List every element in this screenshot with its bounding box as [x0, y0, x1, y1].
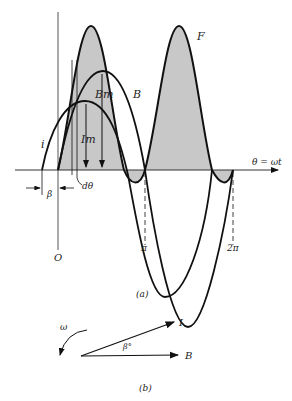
label-vector-B: B	[184, 350, 192, 361]
label-Bm: Bm	[94, 88, 114, 101]
label-Im: Im	[80, 133, 96, 146]
label-dtheta: dθ	[82, 181, 94, 191]
label-pi: π	[140, 243, 148, 253]
label-omega: ω	[60, 322, 68, 332]
label-angle: β°	[122, 342, 132, 351]
omega-rotation-arrow	[60, 330, 87, 355]
caption-b: (b)	[139, 383, 152, 393]
axis-label: θ = ωt	[252, 157, 282, 167]
label-i: i	[41, 138, 45, 151]
label-F: F	[196, 30, 205, 43]
label-vector-I: I	[178, 317, 184, 328]
label-beta: β	[46, 189, 52, 199]
label-2pi: 2π	[226, 243, 240, 253]
label-B: B	[132, 88, 141, 101]
force-curve-F-fill	[58, 26, 233, 182]
figure-canvas: F B i Bm Im dθ β θ = ωt π 2π O (a) ω I B…	[0, 0, 292, 401]
vector-B	[81, 355, 178, 356]
caption-a: (a)	[136, 289, 149, 299]
label-origin: O	[54, 252, 62, 263]
